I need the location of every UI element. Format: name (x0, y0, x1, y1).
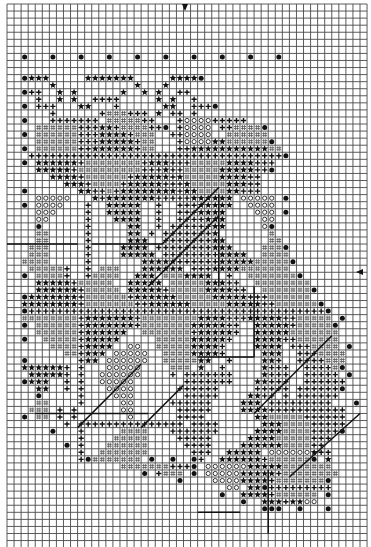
pattern-chart (0, 0, 371, 547)
center-row-arrow-icon (356, 269, 363, 275)
center-column-arrow-icon (182, 4, 188, 11)
pattern-grid (0, 0, 371, 547)
